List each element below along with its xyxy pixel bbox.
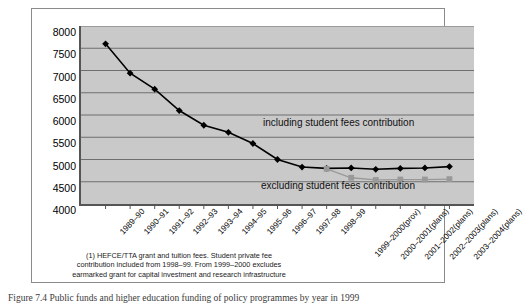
- y-tick-7000: 7000: [36, 72, 76, 83]
- y-tick-8000: 8000: [36, 27, 76, 38]
- y-tick-6000: 6000: [36, 116, 76, 127]
- data-point: [225, 129, 232, 136]
- figure-caption: Figure 7.4 Public funds and higher educa…: [8, 293, 460, 305]
- data-point: [324, 166, 330, 172]
- x-tick-label: 1989–90: [118, 207, 146, 236]
- data-point: [348, 165, 355, 172]
- y-tick-7500: 7500: [36, 49, 76, 60]
- series-annotation-including: including student fees contribution: [263, 117, 414, 128]
- x-tick-label: 1991–92: [167, 207, 195, 236]
- x-tick-label: 2003–2004(plans): [472, 207, 524, 261]
- data-point: [372, 166, 379, 173]
- data-point: [200, 122, 207, 129]
- series-annotation-excluding: excluding student fees contribution: [261, 180, 415, 191]
- x-tick-label: 1990–91: [142, 207, 170, 236]
- x-tick-label: 1992–93: [191, 207, 219, 236]
- series-line-1: [327, 169, 450, 180]
- data-point: [422, 177, 428, 183]
- x-tick-label: 1998–99: [339, 207, 367, 236]
- y-tick-5000: 5000: [36, 161, 76, 172]
- x-tick-label: 1997–98: [314, 207, 342, 236]
- x-tick-label: 1995–96: [265, 207, 293, 236]
- chart-frame: 4000 4500 5000 5500 6000 6500 7000 7500 …: [31, 8, 445, 283]
- y-tick-4500: 4500: [36, 183, 76, 194]
- y-axis-tick-labels: 4000 4500 5000 5500 6000 6500 7000 7500 …: [32, 9, 76, 219]
- y-tick-6500: 6500: [36, 94, 76, 105]
- plot-area: [79, 26, 474, 206]
- x-tick-label: 1993–94: [216, 207, 244, 236]
- data-point: [421, 165, 428, 172]
- data-point: [447, 176, 453, 182]
- data-point: [397, 165, 404, 172]
- x-tick-label: 1996–97: [290, 207, 318, 236]
- x-tick-label: 1994–95: [241, 207, 269, 236]
- series-line-0: [106, 44, 450, 169]
- data-point: [299, 164, 306, 171]
- data-point: [446, 163, 453, 170]
- y-tick-5500: 5500: [36, 138, 76, 149]
- chart-footnote: (1) HEFCE/TTA grant and tuition fees. St…: [70, 251, 288, 279]
